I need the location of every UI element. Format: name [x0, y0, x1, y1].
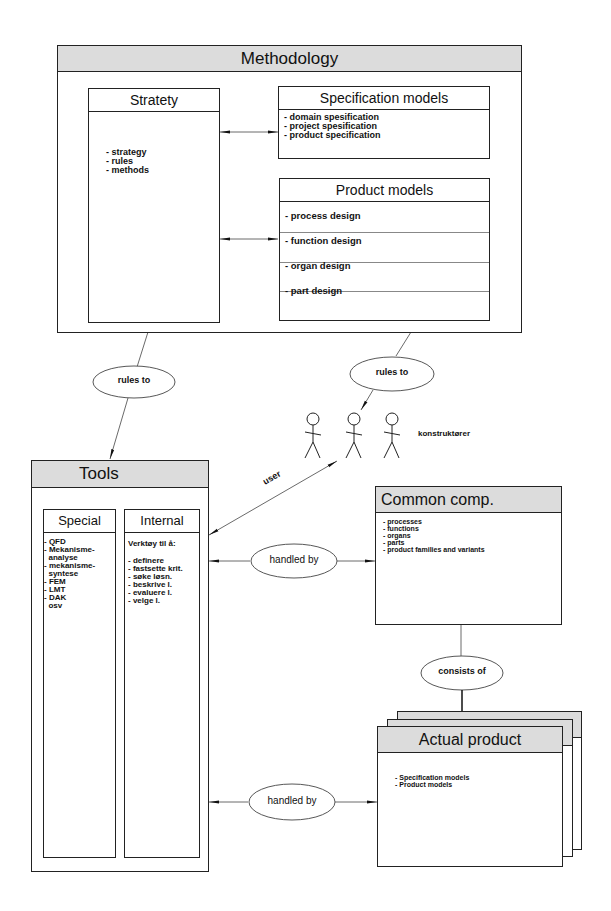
handled-by-top-label: handled by: [254, 554, 334, 565]
strategy-header: Stratety: [89, 89, 219, 112]
common-comp-list: - processes - functions - organs - parts…: [383, 518, 485, 553]
actual-product-box: Actual product - Specification models - …: [377, 726, 563, 867]
specification-models-list: - domain spesification - project spesifi…: [284, 113, 381, 140]
tools-title: Tools: [79, 464, 119, 483]
common-comp-item: - processes: [383, 518, 485, 525]
special-item: osv: [44, 602, 95, 610]
row-divider: [280, 232, 489, 233]
special-box: Special - QFD - Mekanisme- analyse - mek…: [43, 509, 116, 858]
user-figure-icon: [384, 413, 400, 458]
common-comp-item: - functions: [383, 525, 485, 532]
specification-models-box: Specification models - domain spesificat…: [278, 86, 490, 159]
common-comp-header: Common comp.: [376, 487, 561, 513]
common-comp-item: - organs: [383, 532, 485, 539]
product-models-title: Product models: [336, 182, 433, 198]
common-comp-title: Common comp.: [381, 491, 494, 508]
actual-product-item: - Specification models: [395, 774, 469, 781]
user-figure-icon: [346, 413, 362, 458]
actual-product-header: Actual product: [378, 727, 562, 753]
actual-product-title: Actual product: [419, 731, 521, 748]
product-models-row: - function design: [285, 235, 362, 246]
actual-product-list: - Specification models - Product models: [395, 774, 469, 788]
specification-models-title: Specification models: [320, 90, 448, 106]
common-comp-box: Common comp. - processes - functions - o…: [375, 486, 562, 625]
special-title: Special: [58, 513, 101, 528]
strategy-title: Stratety: [130, 92, 178, 108]
strategy-list: - strategy - rules - methods: [106, 148, 149, 175]
actual-product-item: - Product models: [395, 781, 469, 788]
tools-header: Tools: [32, 461, 208, 488]
product-models-header: Product models: [280, 179, 489, 202]
internal-header: Internal: [125, 510, 199, 533]
rules-to-users-arrow: [361, 390, 373, 410]
user-figure-icon: [305, 413, 321, 458]
handled-by-bottom-label: handled by: [252, 795, 332, 806]
consists-of-label: consists of: [422, 666, 502, 676]
strategy-box: Stratety - strategy - rules - methods: [88, 88, 220, 323]
methodology-title: Methodology: [241, 49, 338, 68]
product-models-row: - organ design: [285, 260, 350, 271]
rules-to-left-label: rules to: [94, 375, 174, 385]
internal-item: - velge l.: [128, 597, 183, 605]
product-models-box: Product models - process design - functi…: [279, 178, 490, 321]
special-list: - QFD - Mekanisme- analyse - mekanisme- …: [44, 538, 95, 610]
actors-label: konstruktører: [418, 429, 470, 438]
product-models-row: - process design: [285, 210, 361, 221]
internal-intro: Verktøy til å:: [128, 539, 176, 548]
strategy-item: - methods: [106, 166, 149, 175]
rules-to-right-label: rules to: [352, 367, 432, 377]
product-models-row: - part design: [285, 285, 342, 296]
user-label: user: [261, 468, 282, 486]
special-header: Special: [44, 510, 115, 533]
internal-list: - definere - fastsette krit. - søke løsn…: [128, 557, 183, 605]
internal-title: Internal: [140, 513, 183, 528]
common-comp-item: - parts: [383, 539, 485, 546]
common-comp-item: - product families and variants: [383, 546, 485, 553]
internal-box: Internal Verktøy til å: - definere - fas…: [124, 509, 200, 858]
specification-models-header: Specification models: [279, 87, 489, 110]
rules-to-tools-arrow: [110, 398, 128, 459]
spec-item: - product specification: [284, 131, 381, 140]
methodology-header: Methodology: [58, 46, 521, 72]
